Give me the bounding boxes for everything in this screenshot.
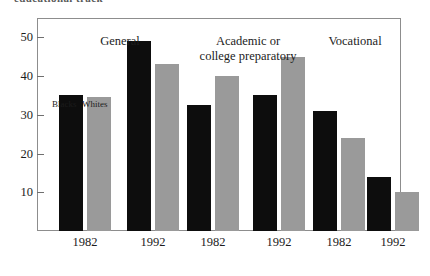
cut-off-caption-text: educational track [14, 0, 134, 3]
y-tick-mark [37, 154, 44, 155]
bar-whites-1982 [87, 97, 111, 231]
legend-label-whites: Whites [82, 99, 108, 109]
x-tick-label: 1982 [183, 235, 243, 249]
bar-blacks-1992 [253, 95, 277, 231]
x-tick-label: 1992 [363, 235, 423, 249]
legend: Blacks Whites [52, 99, 114, 113]
x-tick-label: 1992 [123, 235, 183, 249]
chart-figure: educational track 1020304050 Blacks Whit… [0, 0, 430, 276]
y-tick-label: 30 [0, 109, 33, 121]
y-tick-label: 40 [0, 70, 33, 82]
y-tick-label: 10 [0, 186, 33, 198]
bar-whites-1992 [281, 57, 305, 231]
bar-whites-1982 [341, 138, 365, 231]
x-tick-label: 1992 [249, 235, 309, 249]
bar-whites-1982 [215, 76, 239, 231]
group-heading: Vocational [300, 34, 410, 49]
y-tick-mark [37, 115, 44, 116]
bar-blacks-1992 [127, 41, 151, 231]
y-tick-mark [37, 76, 44, 77]
y-tick-label: 20 [0, 148, 33, 160]
bar-blacks-1982 [187, 105, 211, 231]
bar-whites-1992 [155, 64, 179, 231]
bar-whites-1992 [395, 192, 419, 231]
bar-blacks-1992 [367, 177, 391, 231]
x-tick-label: 1982 [309, 235, 369, 249]
bar-blacks-1982 [59, 95, 83, 231]
x-axis: 198219921982199219821992 [37, 235, 401, 253]
y-tick-mark [37, 192, 44, 193]
x-tick-label: 1982 [55, 235, 115, 249]
bar-blacks-1982 [313, 111, 337, 231]
group-heading: Academic orcollege preparatory [178, 34, 318, 63]
group-heading-line: Academic or [178, 34, 318, 49]
legend-label-blacks: Blacks [52, 99, 77, 109]
group-heading-line: college preparatory [178, 49, 318, 64]
group-heading: General [60, 34, 180, 49]
y-tick-mark [37, 37, 44, 38]
y-axis: 1020304050 [0, 18, 33, 231]
y-tick-label: 50 [0, 31, 33, 43]
